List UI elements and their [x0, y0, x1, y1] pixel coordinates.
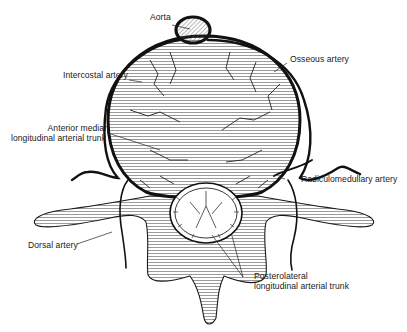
- label-osseous-artery: Osseous artery: [290, 54, 349, 64]
- label-anterior-median-1: Anterior median: [17, 123, 109, 133]
- label-aorta: Aorta: [150, 12, 171, 22]
- label-radiculomedullary-artery: Radiculomedullary artery: [301, 174, 397, 184]
- spinal-cord: [170, 183, 242, 243]
- label-intercostal-artery: Intercostal artery: [63, 70, 128, 80]
- aorta: [176, 17, 210, 43]
- label-posterolateral-1: Posterolateral: [254, 271, 308, 281]
- label-posterolateral-2: longitudinal arterial trunk: [254, 281, 349, 291]
- label-anterior-median-2: longitudinal arterial trunk: [11, 133, 106, 143]
- label-dorsal-artery: Dorsal artery: [28, 240, 78, 250]
